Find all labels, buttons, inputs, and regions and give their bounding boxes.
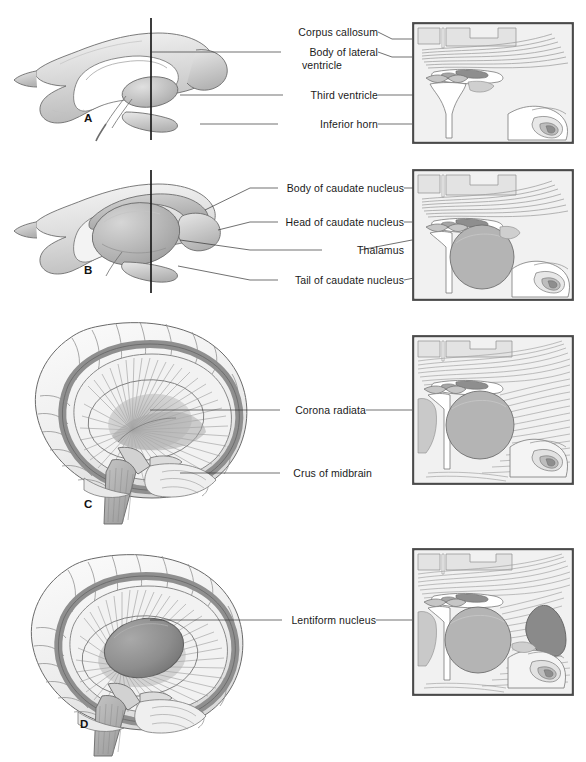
inset-a-coronal-section [412, 22, 574, 144]
panel-b: B Body of caudate nucleus Head of caudat… [0, 160, 586, 310]
panel-d: D Lentiform nucleus [0, 540, 586, 762]
inset-d-coronal-section [412, 548, 574, 696]
label-crus-of-midbrain: Crus of midbrain [276, 467, 372, 480]
label-body-of-lateral-ventricle-line1: Body of lateral [266, 46, 378, 59]
label-lentiform-nucleus: Lentiform nucleus [282, 614, 376, 627]
panel-a: A Corpus callosum Body of lateral ventri… [0, 0, 586, 160]
label-body-of-caudate-nucleus: Body of caudate nucleus [278, 182, 404, 195]
label-body-of-lateral-ventricle-line2: ventricle [266, 59, 378, 72]
label-thalamus: Thalamus [278, 244, 404, 257]
label-corona-radiata: Corona radiata [280, 404, 366, 417]
panel-c: C Corona radiata Crus of midbrain [0, 310, 586, 540]
anatomy-figure: A Corpus callosum Body of lateral ventri… [0, 0, 586, 762]
label-tail-of-caudate-nucleus: Tail of caudate nucleus [278, 274, 404, 287]
inset-c-thalamus [446, 391, 514, 459]
label-third-ventricle: Third ventricle [278, 89, 378, 102]
inset-c-coronal-section [412, 335, 574, 485]
inset-b-coronal-section [412, 169, 574, 301]
inset-d-thalamus [445, 607, 511, 673]
label-corpus-callosum: Corpus callosum [278, 26, 378, 39]
label-inferior-horn: Inferior horn [278, 118, 378, 131]
label-head-of-caudate-nucleus: Head of caudate nucleus [278, 216, 404, 229]
